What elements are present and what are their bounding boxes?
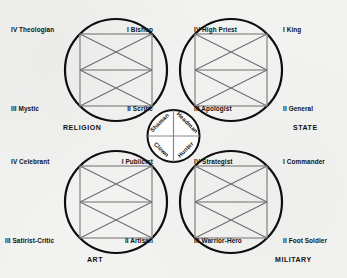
art-domain-label: ART <box>87 256 103 263</box>
state-role-i: I King <box>283 26 301 34</box>
religion-role-ii: II Scribe <box>127 105 153 112</box>
quadrant-art: I Publicist II Artisan III Satirist-Crit… <box>5 151 167 263</box>
art-lattice <box>80 166 152 238</box>
quadrant-religion: I Bishop II Scribe III Mystic IV Theolog… <box>11 19 167 131</box>
quadrant-state: I King II General III Apologist IV High … <box>180 19 318 131</box>
military-role-iv: IV Strategist <box>194 158 233 166</box>
state-role-ii: II General <box>283 105 313 112</box>
military-domain-label: MILITARY <box>275 256 312 263</box>
quadrant-military: I Commander II Foot Soldier III Warrior-… <box>180 151 328 263</box>
fourfold-role-diagram: I Bishop II Scribe III Mystic IV Theolog… <box>0 0 347 278</box>
military-role-ii: II Foot Soldier <box>283 237 328 244</box>
art-role-i: I Publicist <box>122 158 154 165</box>
religion-role-iv: IV Theologian <box>11 26 54 34</box>
core-circle-group: Shaman Headman Clown Hunter <box>148 110 200 162</box>
military-role-i: I Commander <box>283 158 325 165</box>
religion-domain-label: RELIGION <box>63 124 101 131</box>
religion-role-iii: III Mystic <box>11 105 39 113</box>
diagram-root: I Bishop II Scribe III Mystic IV Theolog… <box>0 0 347 278</box>
military-lattice <box>195 166 267 238</box>
art-role-iv: IV Celebrant <box>11 158 50 165</box>
state-role-iii: III Apologist <box>194 105 232 113</box>
art-role-iii: III Satirist-Critic <box>5 237 54 244</box>
state-lattice <box>195 34 267 106</box>
state-domain-label: STATE <box>293 124 318 131</box>
religion-lattice <box>80 34 152 106</box>
art-role-ii: II Artisan <box>125 237 153 244</box>
religion-role-i: I Bishop <box>127 26 153 34</box>
state-role-iv: IV High Priest <box>194 26 238 34</box>
military-role-iii: III Warrior-Hero <box>194 237 242 244</box>
